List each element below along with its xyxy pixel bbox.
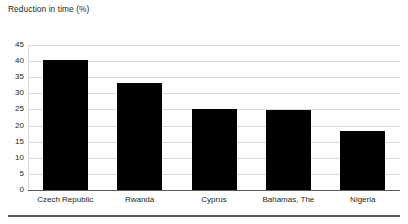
chart-title: Reduction in time (%) xyxy=(8,4,89,14)
y-axis-tick-label: 10 xyxy=(0,154,24,162)
chart-figure: Reduction in time (%) 454035302520151050… xyxy=(0,0,408,224)
y-axis-tick-label: 0 xyxy=(0,186,24,194)
y-axis-tick-label: 45 xyxy=(0,41,24,49)
y-axis-tick-label: 25 xyxy=(0,105,24,113)
x-axis-category-label: Nigeria xyxy=(326,195,400,204)
x-axis-category-label: Cyprus xyxy=(177,195,251,204)
y-axis-tick-label: 15 xyxy=(0,138,24,146)
y-axis-tick-label: 35 xyxy=(0,73,24,81)
plot-area xyxy=(28,45,400,190)
x-axis-category-label: Rwanda xyxy=(102,195,176,204)
y-axis-tick-label: 40 xyxy=(0,57,24,65)
gridline xyxy=(28,45,400,46)
x-axis-line xyxy=(28,190,400,191)
bar xyxy=(192,109,237,190)
bar xyxy=(43,60,88,190)
x-axis-category-label: Czech Republic xyxy=(28,195,102,204)
bar xyxy=(117,83,162,190)
y-axis-tick-label: 20 xyxy=(0,122,24,130)
bar xyxy=(340,131,385,190)
y-axis-tick-label: 5 xyxy=(0,170,24,178)
bar xyxy=(266,110,311,190)
x-axis-category-label: Bahamas, The xyxy=(251,195,325,204)
y-axis-tick-label: 30 xyxy=(0,89,24,97)
bottom-rule xyxy=(8,215,400,217)
